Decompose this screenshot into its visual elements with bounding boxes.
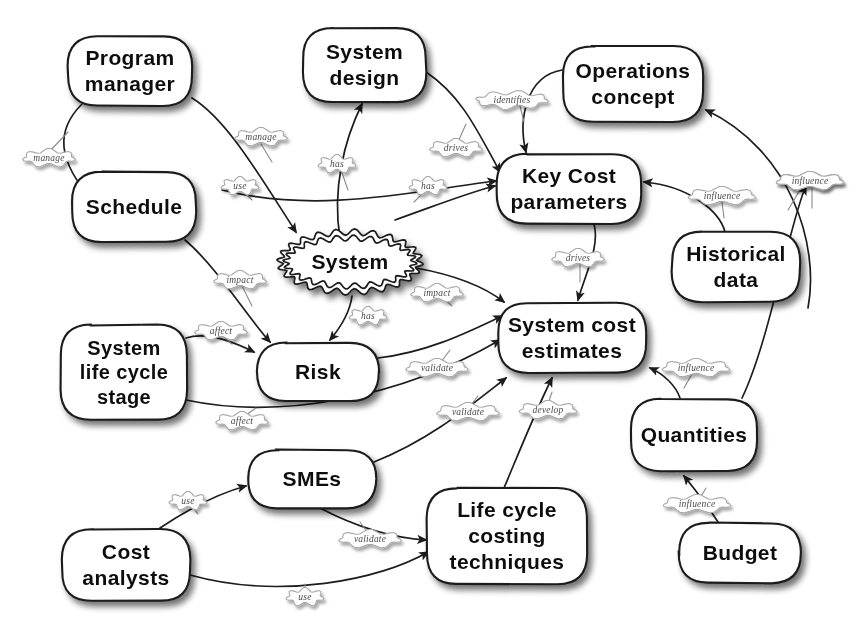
edge-lcct_develop_sce [504, 378, 552, 488]
edge-label-text: has [330, 159, 344, 169]
node-system[interactable]: System [277, 229, 423, 295]
node-system_design[interactable]: Systemdesign [303, 28, 426, 102]
node-outline [563, 46, 703, 122]
edge-label-text: has [361, 311, 375, 321]
edge-label-budget_influences_quantities: influence [663, 494, 731, 512]
edge-cost_analysts_use_lcct [190, 552, 428, 586]
node-label-line: Risk [295, 360, 341, 383]
edge-system_design_drives_kcp [426, 72, 500, 172]
node-label-line: Key Cost [522, 164, 616, 187]
node-label-line: costing [468, 524, 545, 547]
edge-line [504, 378, 552, 488]
node-label-line: manager [85, 72, 175, 95]
edge-label-slcs_affects_risk: affect [195, 321, 248, 339]
edge-label-text: identifies [494, 95, 531, 105]
edge-label-text: impact [226, 275, 253, 285]
edge-slcs_affects_risk [186, 336, 254, 352]
edge-line [395, 186, 495, 220]
edge-line [426, 72, 500, 172]
node-label-line: Historical [686, 242, 786, 265]
concept-map-canvas: ProgrammanagerSystemdesignOperationsconc… [0, 0, 868, 636]
node-label-line: estimates [522, 339, 623, 362]
node-budget[interactable]: Budget [679, 523, 801, 584]
edge-line [190, 552, 428, 586]
node-cost_analysts[interactable]: Costanalysts [62, 529, 191, 601]
node-quantities[interactable]: Quantities [631, 399, 757, 472]
edge-label-text: has [421, 181, 435, 191]
edge-label-operations_identifies_kcp: identifies [476, 91, 549, 110]
edge-label-text: use [298, 592, 311, 602]
edge-label-text: develop [533, 405, 564, 415]
edge-label-cost_analysts_use_lcct: use [286, 587, 324, 605]
edge-label-text: validate [354, 534, 386, 544]
edge-label-pm_manages_schedule: manage [23, 148, 76, 166]
node-label-line: parameters [510, 190, 627, 213]
node-label-line: concept [591, 85, 674, 108]
node-system_cost_estimates[interactable]: System costestimates [498, 303, 646, 373]
edge-label-kcp_drives_sce: drives [552, 248, 605, 266]
edge-label-text: influence [678, 363, 715, 373]
edge-label-risk_validate_sce: validate [406, 358, 469, 376]
edge-line [523, 70, 562, 152]
edge-label-pm_manages_system: manage [235, 127, 288, 145]
edge-label-text: drives [444, 143, 469, 153]
node-label-line: Life cycle [457, 498, 557, 521]
edge-label-stem [722, 202, 724, 218]
edge-label-smes_use_kcp: use [221, 176, 259, 194]
edge-label-system_has_risk: has [349, 306, 387, 324]
edge-label-lcct_develop_sce: develop [519, 400, 577, 418]
edge-pm_manages_system [192, 98, 296, 232]
edge-line [330, 296, 352, 340]
node-label-line: Schedule [86, 195, 183, 218]
edge-label-text: use [181, 496, 194, 506]
edge-line [160, 486, 246, 528]
edge-cost_analysts_use_smes [160, 486, 246, 528]
node-historical_data[interactable]: Historicaldata [672, 232, 801, 303]
node-label-line: Budget [703, 541, 778, 564]
edge-label-quantities_influence_sce: influence [662, 358, 730, 376]
node-label-line: Quantities [641, 423, 748, 446]
edge-label-stem [261, 144, 272, 162]
edge-label-smes_validate_lcct: validate [339, 529, 402, 547]
node-operations_concept[interactable]: Operationsconcept [563, 46, 703, 122]
edge-line [186, 336, 254, 352]
edge-label-text: manage [245, 132, 276, 142]
edge-label-slcs_affects_sce: affect [216, 411, 269, 429]
edge-label-text: affect [231, 416, 253, 426]
edge-label-text: influence [792, 176, 829, 186]
node-label-line: techniques [450, 550, 565, 573]
node-life_cycle_costing_techniques[interactable]: Life cyclecostingtechniques [427, 488, 588, 585]
node-label-line: stage [97, 386, 151, 408]
diagram-svg: ProgrammanagerSystemdesignOperationsconc… [0, 0, 868, 636]
node-label-line: design [329, 66, 399, 89]
node-label-line: System [326, 40, 403, 63]
edge-label-cost_analysts_use_smes: use [169, 491, 207, 509]
edge-line [378, 316, 502, 358]
edge-label-text: impact [423, 288, 450, 298]
node-label-line: SMEs [283, 467, 342, 490]
edge-system_has_risk [330, 296, 352, 340]
edge-system_has_kcp [395, 186, 495, 220]
node-key_cost_parameters[interactable]: Key Costparameters [497, 154, 642, 224]
node-label-line: Program [85, 46, 174, 69]
edge-label-text: affect [210, 326, 232, 336]
edge-line [192, 98, 296, 232]
edge-label-system_impacts_sce: impact [411, 283, 464, 301]
edge-smes_validate_sce [374, 378, 506, 462]
node-schedule[interactable]: Schedule [72, 172, 196, 242]
node-label-line: life cycle [80, 361, 169, 383]
node-label-line: System cost [508, 313, 636, 336]
nodes-layer: ProgrammanagerSystemdesignOperationsconc… [61, 28, 801, 601]
node-label-line: System [311, 250, 388, 273]
edge-label-smes_validate_sce: validate [437, 402, 500, 420]
node-label-line: analysts [82, 566, 169, 589]
node-system_life_cycle_stage[interactable]: Systemlife cyclestage [61, 325, 188, 420]
node-risk[interactable]: Risk [257, 343, 379, 402]
node-program_manager[interactable]: Programmanager [68, 36, 193, 106]
node-smes[interactable]: SMEs [248, 450, 376, 509]
edge-label-text: validate [452, 407, 484, 417]
node-label-line: Operations [576, 59, 691, 82]
edge-risk_validate_sce [378, 316, 502, 358]
edge-label-text: influence [679, 499, 716, 509]
edge-label-text: use [233, 181, 246, 191]
